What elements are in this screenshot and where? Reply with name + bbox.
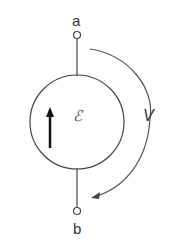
emf-arrow-icon [46, 107, 54, 148]
circuit-diagram [0, 0, 192, 252]
voltage-arrowhead-icon [91, 192, 100, 199]
voltage-arc [90, 49, 151, 197]
terminal-b-label: b [73, 221, 81, 236]
voltage-label: V [143, 108, 154, 124]
terminal-a-node [74, 32, 81, 39]
terminal-a-label: a [72, 13, 80, 28]
terminal-b-node [74, 208, 81, 215]
emf-symbol: ℰ [73, 109, 82, 124]
